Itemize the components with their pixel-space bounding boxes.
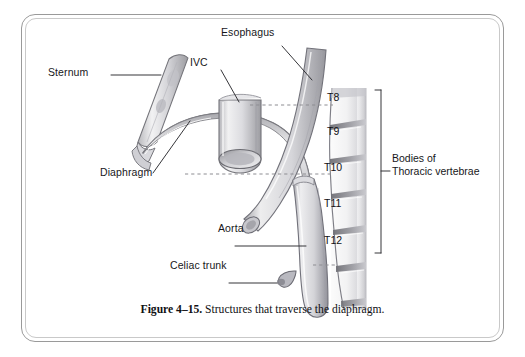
label-thoracic-vertebrae-bodies: Bodies of Thoracic vertebrae <box>392 152 480 178</box>
figure-caption: Figure 4–15. Structures that traverse th… <box>0 303 525 316</box>
label-esophagus: Esophagus <box>221 26 274 38</box>
figure-page: Sternum IVC Esophagus Diaphragm Aorta Ce… <box>0 0 525 357</box>
celiac-trunk-structure <box>277 271 296 287</box>
aorta-structure <box>293 176 328 317</box>
figure-caption-number: Figure 4–15. <box>141 303 203 316</box>
bracket-label-line-2: Thoracic vertebrae <box>392 165 480 178</box>
label-vertebra-t10: T10 <box>324 161 342 173</box>
label-diaphragm: Diaphragm <box>100 166 152 178</box>
sternum-structure <box>134 55 188 163</box>
label-vertebra-t9: T9 <box>327 125 339 137</box>
label-ivc: IVC <box>190 56 208 68</box>
label-celiac-trunk: Celiac trunk <box>170 259 227 271</box>
vertebrae-bracket <box>375 90 390 253</box>
bracket-label-line-1: Bodies of <box>392 152 480 165</box>
label-sternum: Sternum <box>48 66 88 78</box>
label-vertebra-t8: T8 <box>327 91 339 103</box>
figure-caption-text: Structures that traverse the diaphragm. <box>205 303 384 316</box>
label-vertebra-t11: T11 <box>324 197 341 209</box>
label-vertebra-t12: T12 <box>324 234 342 246</box>
label-aorta: Aorta <box>218 222 244 234</box>
ivc-structure <box>219 94 261 173</box>
